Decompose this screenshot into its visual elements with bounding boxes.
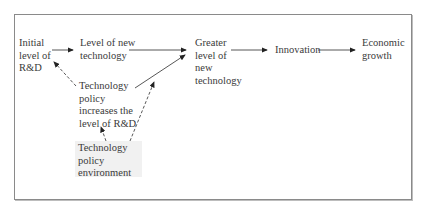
arrows-layer — [0, 0, 425, 208]
arrow-policy-to-greater — [135, 55, 185, 88]
node-policy-increases-rd: Technology policy increases the level of… — [79, 80, 136, 130]
node-innovation: Innovation — [275, 44, 321, 57]
node-new-technology: Level of new technology — [80, 37, 135, 62]
node-greater-technology: Greater level of new technology — [195, 37, 242, 87]
node-policy-environment: Technology policy environment — [78, 142, 131, 180]
node-initial-rd: Initial level of R&D — [19, 37, 51, 75]
arrow-policy-to-initial — [54, 62, 76, 86]
node-economic-growth: Economic growth — [362, 37, 405, 62]
